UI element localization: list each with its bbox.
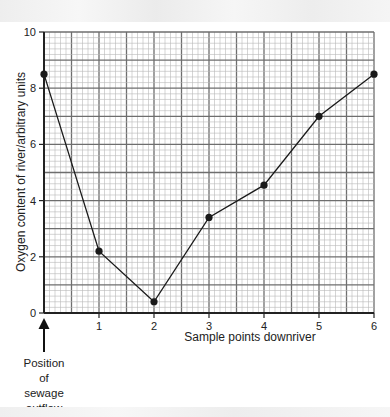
faded-footer-strip bbox=[0, 407, 390, 417]
x-tick-label: 6 bbox=[371, 320, 377, 332]
y-tick-label: 0 bbox=[30, 307, 36, 319]
sewage-outflow-arrow-icon bbox=[39, 318, 50, 352]
x-axis-label: Sample points downriver bbox=[184, 330, 315, 344]
x-tick-label: 2 bbox=[151, 320, 157, 332]
data-point-marker bbox=[40, 71, 47, 78]
graph-paper-grid bbox=[44, 32, 374, 313]
x-tick-label: 1 bbox=[96, 320, 102, 332]
data-point-marker bbox=[150, 298, 157, 305]
y-axis-label: Oxygen content of river/arbitrary units bbox=[14, 72, 28, 272]
data-point-marker bbox=[260, 182, 267, 189]
y-tick-label: 10 bbox=[24, 26, 36, 38]
annotation-line: of bbox=[14, 371, 74, 386]
y-tick-label: 4 bbox=[30, 195, 36, 207]
annotation-line: Position bbox=[14, 356, 74, 371]
y-tick-label: 8 bbox=[30, 82, 36, 94]
y-tick-label: 2 bbox=[30, 251, 36, 263]
x-tick-label: 5 bbox=[316, 320, 322, 332]
data-point-marker bbox=[205, 214, 212, 221]
data-point-marker bbox=[315, 113, 322, 120]
data-point-marker bbox=[370, 71, 377, 78]
data-point-marker bbox=[95, 248, 102, 255]
oxygen-chart: 0246810 123456 Oxygen content of river/a… bbox=[0, 0, 390, 417]
annotation-line: sewage bbox=[14, 386, 74, 401]
y-tick-label: 6 bbox=[30, 138, 36, 150]
